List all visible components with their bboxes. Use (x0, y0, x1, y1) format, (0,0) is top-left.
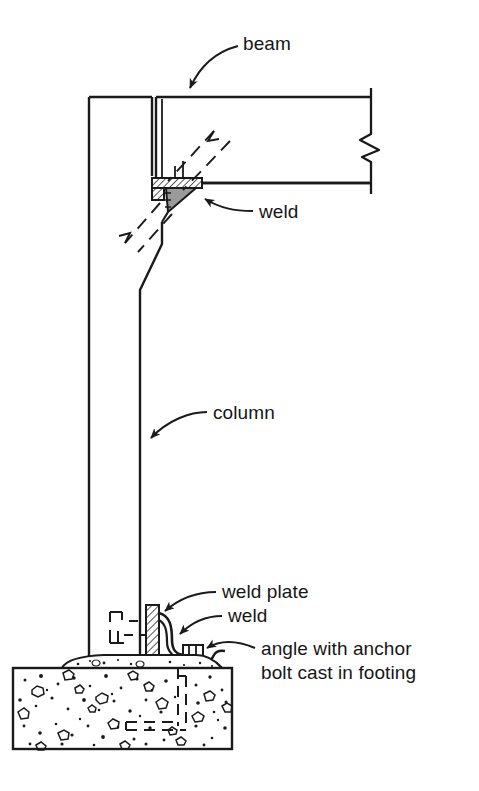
grout-bed (62, 655, 222, 668)
label-angle-line2: bolt cast in footing (261, 662, 416, 683)
concrete-footing (13, 668, 232, 750)
label-angle-line1: angle with anchor (261, 638, 412, 659)
label-weld-top: weld (258, 201, 298, 222)
label-weld-bottom: weld (227, 605, 267, 626)
figure-root: beam weld column weld plate weld angle w… (0, 0, 479, 791)
label-weld-plate: weld plate (221, 581, 309, 602)
label-column: column (213, 402, 275, 423)
connection-detail-drawing: beam weld column weld plate weld angle w… (0, 0, 479, 791)
label-beam: beam (243, 33, 291, 54)
